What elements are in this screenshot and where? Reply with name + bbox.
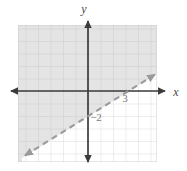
- x-axis-label: x: [172, 85, 179, 99]
- y-axis-label: y: [80, 2, 87, 16]
- coordinate-plane-svg: y x 3 −2: [0, 0, 187, 171]
- tick-label-x-3: 3: [122, 92, 128, 104]
- graph-figure: y x 3 −2: [0, 0, 187, 171]
- tick-label-y-negative-2: −2: [90, 111, 102, 123]
- plot-area: [18, 25, 175, 171]
